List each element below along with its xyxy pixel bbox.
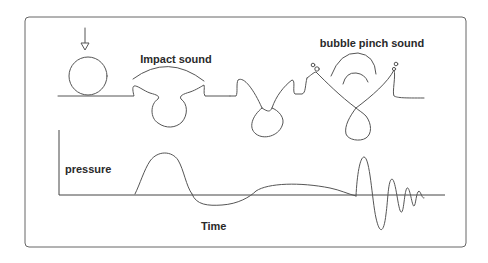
x-axis-label: Time [201, 220, 226, 232]
bubble-pinch-sound-label: bubble pinch sound [320, 37, 425, 49]
pressure-plot: pressure Time [59, 130, 445, 232]
water-surface-pinch [307, 70, 424, 108]
water-surface-impact [58, 85, 230, 127]
droplet-splash-right-small [392, 67, 395, 70]
bubble-oscillation [356, 157, 424, 230]
y-axis-label: pressure [65, 163, 111, 175]
impact-pulse [135, 153, 192, 194]
pinch-inner-arc [343, 73, 368, 84]
falling-drop [69, 28, 107, 95]
droplet [69, 57, 107, 95]
water-surface-closing [230, 78, 307, 111]
down-arrow-icon [81, 43, 89, 50]
impact-sound-label: Impact sound [140, 53, 212, 65]
droplet-splash [315, 67, 319, 71]
impact-arc [133, 66, 204, 81]
diagram-frame [25, 17, 466, 247]
pinched-bubble [346, 108, 371, 140]
droplet-splash-small [311, 63, 315, 67]
droplet-splash-right [394, 62, 398, 66]
closing-lobe [252, 108, 283, 137]
drop-impact-diagram: Impact sound bubble pinch sound pressure… [0, 0, 488, 263]
